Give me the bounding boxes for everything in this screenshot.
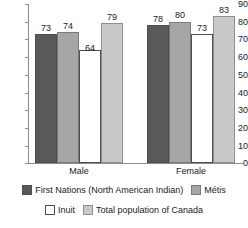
legend-item-inuit[interactable]: Inuit (45, 205, 75, 215)
bar-male-total-population (101, 23, 123, 163)
bar-chart: 90 80 70 60 50 40 30 20 10 0 (0, 0, 248, 228)
bar-label-female-metis: 80 (169, 11, 191, 20)
bar-label-female-total-population: 83 (213, 6, 235, 15)
legend-item-first-nations[interactable]: First Nations (North American Indian) (22, 185, 183, 195)
bar-male-first-nations (35, 34, 57, 163)
bar-label-female-first-nations: 78 (147, 15, 169, 24)
bar-female-total-population (213, 16, 235, 163)
legend-item-total-population[interactable]: Total population of Canada (83, 205, 203, 215)
bar-label-male-total-population: 79 (101, 13, 123, 22)
legend-label-total-population: Total population of Canada (96, 205, 203, 215)
legend-row-1: First Nations (North American Indian) Mé… (0, 185, 248, 195)
x-axis-line (28, 163, 243, 164)
legend-label-first-nations: First Nations (North American Indian) (35, 185, 183, 195)
legend-swatch-metis-icon (191, 185, 201, 195)
bar-male-metis (57, 32, 79, 163)
legend-label-metis: Métis (204, 185, 226, 195)
bar-female-first-nations (147, 25, 169, 163)
bar-label-male-metis: 74 (57, 22, 79, 31)
legend-label-inuit: Inuit (58, 205, 75, 215)
legend-row-2: Inuit Total population of Canada (0, 205, 248, 215)
x-axis-label-male: Male (35, 166, 123, 176)
bar-label-female-inuit: 73 (191, 24, 213, 33)
bar-label-male-inuit: 64 (79, 44, 101, 53)
legend-swatch-inuit-icon (45, 205, 55, 215)
bar-female-inuit (191, 34, 213, 163)
bar-male-inuit (79, 50, 101, 163)
legend-swatch-first-nations-icon (22, 185, 32, 195)
legend-item-metis[interactable]: Métis (191, 185, 226, 195)
bar-label-male-first-nations: 73 (35, 24, 57, 33)
chart-legend: First Nations (North American Indian) Mé… (0, 185, 248, 228)
bar-female-metis (169, 22, 191, 163)
legend-swatch-total-population-icon (83, 205, 93, 215)
plot-area: 90 80 70 60 50 40 30 20 10 0 (0, 0, 248, 182)
x-axis-label-female: Female (147, 166, 235, 176)
